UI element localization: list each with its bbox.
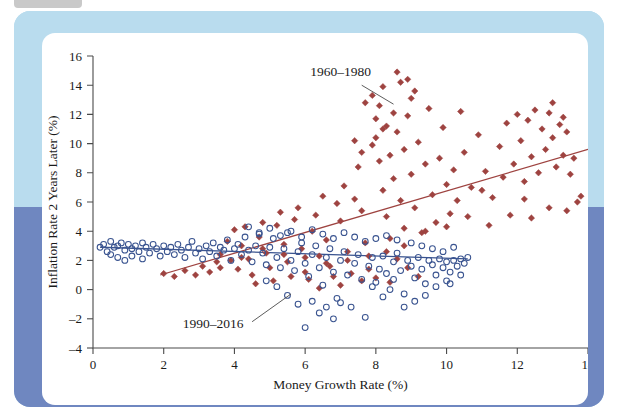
data-points-group [97,69,584,331]
data-point-diamond [387,152,393,158]
figure-root: –4–2024681012141602468101214Money Growth… [0,0,619,415]
data-point-diamond [217,265,223,271]
data-point-diamond [578,193,584,199]
data-point-diamond [574,199,580,205]
data-point-circle [412,298,418,304]
data-point-circle [391,259,397,265]
data-point-circle [320,231,326,237]
data-point-circle [274,284,280,290]
data-point-circle [277,265,283,271]
trendlines-group [100,149,588,275]
axis-lines [93,56,588,348]
data-point-diamond [355,164,361,170]
data-point-diamond [482,168,488,174]
data-point-circle [323,255,329,261]
data-point-diamond [383,213,389,219]
data-point-circle [384,271,390,277]
data-point-circle [369,284,375,290]
data-point-diamond [291,216,297,222]
data-point-diamond [567,171,573,177]
data-point-diamond [401,225,407,231]
y-axis-title: Inflation Rate 2 Years Later (%) [45,115,60,288]
data-point-circle [136,249,142,255]
data-point-diamond [539,126,545,132]
data-point-diamond [404,265,410,271]
data-point-diamond [521,178,527,184]
data-point-circle [461,260,467,266]
data-point-diamond [394,69,400,75]
data-point-diamond [334,200,340,206]
data-point-diamond [514,111,520,117]
data-point-diamond [284,259,290,265]
data-point-circle [285,230,291,236]
data-point-circle [394,237,400,243]
data-point-diamond [532,107,538,113]
page-corner-tab [14,0,82,8]
data-point-diamond [535,170,541,176]
data-point-diamond [412,88,418,94]
data-point-diamond [373,116,379,122]
data-point-diamond [479,187,485,193]
data-point-diamond [549,100,555,106]
x-tick-label: 0 [90,357,97,372]
data-point-diamond [503,120,509,126]
data-point-diamond [359,149,365,155]
data-point-diamond [373,135,379,141]
data-point-diamond [450,167,456,173]
data-point-diamond [351,137,357,143]
data-point-circle [242,234,248,240]
data-point-circle [355,252,361,258]
data-point-circle [384,233,390,239]
data-point-circle [316,265,322,271]
data-point-circle [401,291,407,297]
y-tick-label: 12 [69,107,82,122]
series-annotation-label: 1960–1980 [310,64,371,79]
data-point-diamond [206,269,212,275]
data-point-circle [433,272,439,278]
data-point-diamond [270,278,276,284]
data-point-diamond [199,263,205,269]
data-point-diamond [288,273,294,279]
y-tick-label: 16 [69,49,83,64]
data-point-circle [341,230,347,236]
data-point-diamond [549,135,555,141]
data-point-circle [430,246,436,252]
data-point-diamond [518,137,524,143]
x-tick-label: 12 [511,357,524,372]
data-point-circle [454,263,460,269]
data-point-circle [210,240,216,246]
data-point-circle [440,249,446,255]
data-point-circle [352,234,358,240]
data-point-diamond [440,124,446,130]
data-point-diamond [341,183,347,189]
data-point-diamond [528,215,534,221]
y-tick-label: –4 [68,341,83,356]
data-point-circle [171,252,177,258]
data-point-diamond [295,205,301,211]
data-point-diamond [376,158,382,164]
data-point-circle [267,244,273,250]
data-point-diamond [525,117,531,123]
data-point-circle [376,266,382,272]
data-point-diamond [249,272,255,278]
annotations-group: 1960–19801990–2016 [183,64,394,330]
data-point-circle [331,316,337,322]
data-point-circle [398,268,404,274]
data-point-circle [408,240,414,246]
data-point-circle [422,293,428,299]
data-point-diamond [390,175,396,181]
data-point-diamond [348,270,354,276]
data-point-circle [465,255,471,261]
data-point-diamond [454,197,460,203]
data-point-circle [267,225,273,231]
data-point-circle [394,250,400,256]
data-point-circle [270,236,276,242]
data-point-diamond [320,193,326,199]
data-point-diamond [468,184,474,190]
data-point-diamond [443,181,449,187]
data-point-diamond [260,219,266,225]
data-point-circle [129,253,135,259]
data-point-circle [292,268,298,274]
data-point-diamond [560,114,566,120]
data-point-diamond [546,110,552,116]
